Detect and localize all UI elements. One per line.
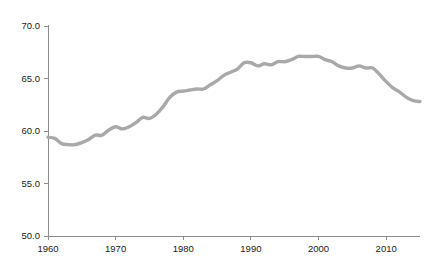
x-tick-label: 2000 bbox=[299, 244, 339, 254]
y-tick-label: 60.0 bbox=[0, 126, 40, 136]
chart-container: 50.055.060.065.070.0 1960197019801990200… bbox=[0, 0, 439, 266]
x-tick-label: 2010 bbox=[366, 244, 406, 254]
x-tick-label: 1970 bbox=[96, 244, 136, 254]
x-tick-label: 1990 bbox=[231, 244, 271, 254]
x-tick-label: 1960 bbox=[28, 244, 68, 254]
y-tick-label: 50.0 bbox=[0, 231, 40, 241]
chart-plot-area bbox=[0, 0, 439, 266]
y-tick-label: 55.0 bbox=[0, 179, 40, 189]
axis-lines bbox=[48, 25, 420, 236]
axis-tickmarks bbox=[44, 26, 386, 240]
y-tick-label: 65.0 bbox=[0, 74, 40, 84]
data-line-1 bbox=[48, 56, 420, 145]
y-tick-label: 70.0 bbox=[0, 21, 40, 31]
x-tick-label: 1980 bbox=[163, 244, 203, 254]
data-series-layer bbox=[48, 56, 420, 145]
